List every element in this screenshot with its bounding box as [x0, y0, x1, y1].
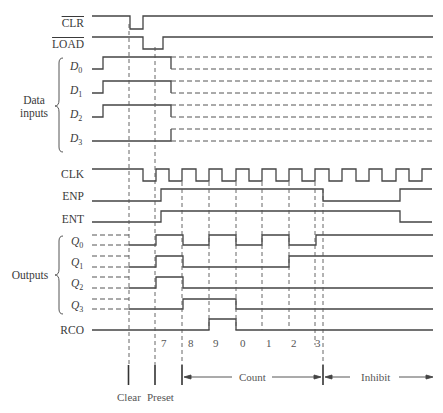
- d3-label: D3: [70, 133, 82, 147]
- rco-label: RCO: [24, 325, 84, 337]
- preset-phase-label: Preset: [144, 391, 177, 403]
- data-inputs-line2: inputs: [14, 107, 54, 120]
- ent-label: ENT: [24, 214, 84, 226]
- d2-label: D2: [70, 109, 82, 123]
- d2-waveform: [92, 105, 171, 117]
- d0-label: D0: [70, 61, 82, 75]
- clear-phase-label: Clear: [114, 391, 144, 403]
- q3-label: Q3: [71, 300, 83, 314]
- clr-label: CLR: [24, 18, 84, 30]
- q1-label: Q1: [71, 257, 83, 271]
- load-waveform: [92, 37, 433, 49]
- q2-label: Q2: [71, 278, 83, 292]
- q0-waveform: [129, 235, 433, 245]
- q1-waveform: [129, 256, 433, 267]
- data-inputs-line1: Data: [14, 94, 54, 107]
- count-value-9: 9: [213, 337, 219, 349]
- count-value-7: 7: [161, 337, 167, 349]
- d3-waveform: [92, 129, 171, 141]
- d1-label: D1: [70, 85, 82, 99]
- clr-waveform: [92, 16, 433, 29]
- count-value-8: 8: [188, 337, 194, 349]
- clk-waveform: [92, 169, 432, 181]
- timing-diagram: [0, 0, 443, 413]
- count-phase-label: Count: [236, 371, 269, 383]
- q0-label: Q0: [71, 236, 83, 250]
- load-label: LOAD: [24, 39, 84, 51]
- count-value-1: 1: [266, 337, 272, 349]
- data-inputs-group-label: Data inputs: [14, 94, 54, 120]
- count-value-0: 0: [240, 337, 246, 349]
- d1-waveform: [92, 81, 171, 93]
- d0-waveform: [92, 57, 171, 69]
- inhibit-phase-label: Inhibit: [358, 371, 393, 383]
- outputs-brace: [55, 236, 63, 314]
- count-value-2: 2: [291, 337, 297, 349]
- q2-waveform: [129, 277, 433, 288]
- outputs-group-label: Outputs: [8, 269, 52, 282]
- count-value-3: 3: [315, 337, 321, 349]
- clk-label: CLK: [24, 169, 84, 181]
- data-inputs-brace: [55, 58, 63, 152]
- enp-label: ENP: [24, 191, 84, 203]
- q3-waveform: [129, 299, 433, 309]
- rco-waveform: [92, 319, 433, 330]
